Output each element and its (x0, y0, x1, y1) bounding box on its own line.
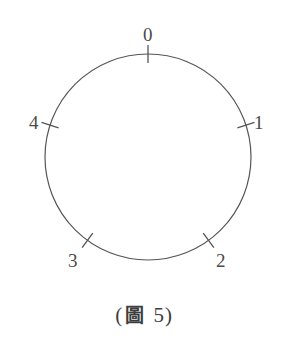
tick-mark-2 (203, 233, 214, 248)
tick-mark-3 (82, 233, 93, 248)
tick-marks-group (41, 45, 254, 248)
tick-label-2: 2 (216, 251, 226, 270)
tick-label-0: 0 (143, 25, 153, 44)
caption-cjk-character: 圖 (123, 304, 147, 326)
circle-diagram (0, 0, 288, 300)
circle-outline-group (45, 54, 251, 260)
caption-open-paren: ( (115, 303, 123, 327)
caption-number: 5 (153, 303, 165, 327)
circle-outline (45, 54, 251, 260)
figure-container: 01234 (圖 5) (0, 0, 288, 353)
tick-label-1: 1 (254, 113, 264, 132)
tick-label-4: 4 (29, 113, 39, 132)
tick-label-3: 3 (68, 251, 78, 270)
figure-caption: (圖 5) (0, 300, 288, 328)
caption-close-paren: ) (165, 303, 173, 327)
